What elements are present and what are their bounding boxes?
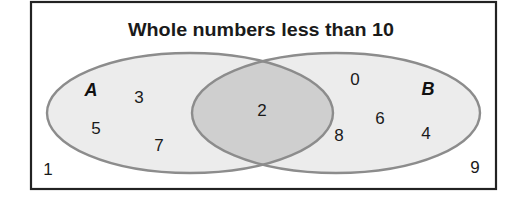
element-3: 3	[134, 88, 143, 107]
venn-diagram: Whole numbers less than 10 A B 3 5 7 2 0…	[0, 0, 519, 204]
element-4: 4	[421, 124, 430, 143]
element-7: 7	[154, 136, 163, 155]
element-2: 2	[257, 101, 266, 120]
element-9: 9	[470, 158, 479, 177]
element-6: 6	[375, 109, 384, 128]
element-8: 8	[334, 126, 343, 145]
set-a-label: A	[84, 80, 98, 100]
element-0: 0	[350, 70, 359, 89]
diagram-title: Whole numbers less than 10	[128, 19, 394, 40]
set-b-label: B	[422, 79, 435, 99]
element-5: 5	[91, 119, 100, 138]
element-1: 1	[43, 160, 52, 179]
